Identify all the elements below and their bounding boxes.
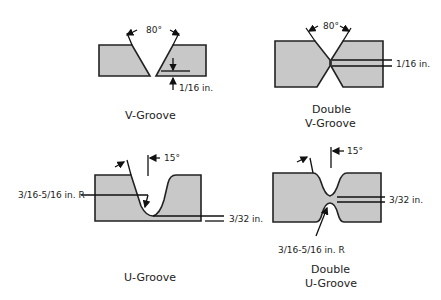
double-v-caption-line1: Double (312, 103, 351, 116)
u-groove-angle-label: 15° (164, 153, 180, 163)
v-groove-angle-arrow-right (170, 30, 179, 35)
double-v-caption-line2: V-Groove (305, 117, 356, 130)
v-groove-angle-label: 80° (146, 25, 162, 35)
double-u-angle-line (310, 158, 313, 173)
double-u-angle-label: 15° (347, 146, 363, 156)
v-groove-caption: V-Groove (125, 109, 176, 122)
u-groove-plate (95, 175, 201, 221)
u-groove-dimension-label: 3/32 in. (229, 214, 263, 224)
double-u-caption-line2: U-Groove (305, 277, 357, 290)
double-v-left-plate (275, 41, 330, 87)
double-v-dimension-label: 1/16 in. (396, 59, 430, 69)
double-v-right-plate (331, 41, 383, 87)
double-u-dimension-label: 3/32 in. (389, 195, 423, 205)
double-u-groove-figure: 15° 3/32 in. 3/16-5/16 in. R Double U-Gr… (273, 146, 423, 290)
double-u-angle-arrow-left (297, 157, 307, 162)
double-v-angle-label: 80° (323, 21, 339, 31)
v-groove-left-plate (99, 45, 150, 76)
weld-groove-diagram: 80° 1/16 in. V-Groove 80° 1/16 in. Doubl… (0, 0, 441, 300)
double-u-caption-line1: Double (311, 263, 350, 276)
double-v-angle-arrow-left (309, 26, 318, 31)
v-groove-dimension-label: 1/16 in. (179, 83, 213, 93)
u-groove-radius-arrow (145, 195, 148, 207)
u-groove-angle-line (127, 160, 131, 175)
double-v-angle-arrow-right (340, 26, 349, 31)
v-groove-angle-arrow-left (127, 30, 137, 35)
u-groove-caption: U-Groove (124, 271, 176, 284)
double-v-groove-figure: 80° 1/16 in. Double V-Groove (275, 21, 430, 130)
u-groove-angle-arrow-left (115, 162, 124, 167)
u-groove-radius-label: 3/16-5/16 in. R (18, 190, 85, 200)
double-u-radius-label: 3/16-5/16 in. R (278, 245, 345, 255)
v-groove-figure: 80° 1/16 in. V-Groove (99, 25, 213, 122)
u-groove-figure: 15° 3/16-5/16 in. R 3/32 in. U-Groove (18, 153, 263, 284)
